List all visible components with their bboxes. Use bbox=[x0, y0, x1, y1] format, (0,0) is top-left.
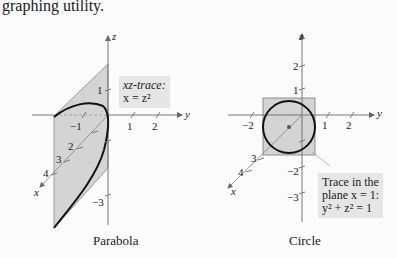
x-axis-label: x bbox=[231, 185, 236, 197]
tick-label: −3 bbox=[92, 196, 104, 208]
x-axis-label: x bbox=[34, 186, 39, 198]
figure-caption: Circle bbox=[289, 233, 321, 249]
tick-label: 2 bbox=[293, 60, 299, 72]
tick-label: 1 bbox=[322, 119, 328, 131]
tick-label: −1 bbox=[70, 120, 82, 132]
tick-label: −3 bbox=[287, 191, 299, 203]
tick-label: 1 bbox=[293, 84, 299, 96]
tick-label: 1 bbox=[97, 84, 103, 96]
tick-label: 1 bbox=[127, 120, 133, 132]
tick-label: 3 bbox=[56, 153, 62, 165]
y-axis-label: y bbox=[377, 107, 382, 119]
parabola-annotation: xz-trace: x = z² bbox=[119, 76, 170, 108]
parabola-figure bbox=[32, 36, 182, 228]
tick-label: 2 bbox=[152, 120, 158, 132]
tick-label: 2 bbox=[68, 140, 74, 152]
tick-label: −2 bbox=[242, 119, 254, 131]
diagram-canvas bbox=[0, 0, 397, 258]
tick-label: 2 bbox=[346, 119, 352, 131]
tick-label: −2 bbox=[287, 165, 299, 177]
figure-caption: Parabola bbox=[93, 233, 138, 249]
z-axis-label: z bbox=[112, 30, 116, 42]
z-axis-label: z bbox=[299, 30, 303, 42]
circle-annotation: Trace in the plane x = 1: y² + z² = 1 bbox=[318, 173, 383, 218]
tick-label: 4 bbox=[43, 167, 49, 179]
tick-label: 3 bbox=[251, 152, 257, 164]
tick-label: 4 bbox=[238, 166, 244, 178]
y-axis-label: y bbox=[185, 108, 190, 120]
